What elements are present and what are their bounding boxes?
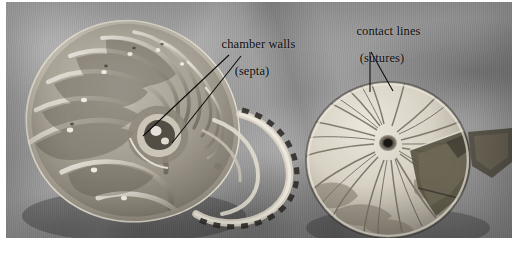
label-chamber-walls-line2: (septa) <box>196 65 308 79</box>
nautilus-figure: chamber walls (septa) contact lines (sut… <box>0 0 519 258</box>
label-chamber-walls-line1: chamber walls <box>222 37 296 51</box>
label-contact-lines-line1: contact lines <box>356 24 420 38</box>
label-chamber-walls: chamber walls (septa) <box>196 24 308 106</box>
label-contact-lines: contact lines (sutures) <box>330 11 434 93</box>
label-contact-lines-line2: (sutures) <box>330 52 434 66</box>
